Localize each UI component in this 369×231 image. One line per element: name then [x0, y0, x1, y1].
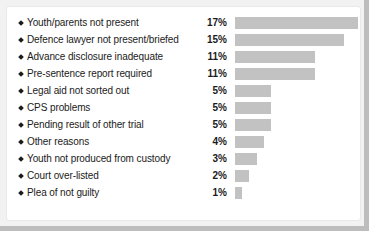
chart-row: CPS problems5% [7, 99, 360, 116]
value-label: 11% [189, 68, 227, 79]
category-label: Advance disclosure inadequate [27, 51, 163, 62]
bar-track [235, 170, 356, 182]
diamond-bullet-icon [15, 72, 27, 76]
chart-row: Youth/parents not present17% [7, 14, 360, 31]
bar-track [235, 51, 356, 63]
category-label: Pre-sentence report required [27, 68, 152, 79]
value-label: 3% [189, 153, 227, 164]
chart-row: Advance disclosure inadequate11% [7, 48, 360, 65]
category-label: Defence lawyer not present/briefed [27, 34, 179, 45]
value-label: 5% [189, 102, 227, 113]
category-label: Youth/parents not present [27, 17, 139, 28]
value-label: 5% [189, 85, 227, 96]
diamond-glyph [18, 139, 24, 145]
diamond-bullet-icon [15, 157, 27, 161]
bar-track [235, 85, 356, 97]
diamond-glyph [18, 105, 24, 111]
diamond-glyph [18, 88, 24, 94]
diamond-bullet-icon [15, 106, 27, 110]
value-label: 4% [189, 136, 227, 147]
diamond-glyph [18, 190, 24, 196]
category-label: Youth not produced from custody [27, 153, 170, 164]
bar [235, 136, 264, 148]
diamond-bullet-icon [15, 21, 27, 25]
category-label: Legal aid not sorted out [27, 85, 129, 96]
category-label: Other reasons [27, 136, 89, 147]
value-label: 15% [189, 34, 227, 45]
bar [235, 119, 271, 131]
diamond-bullet-icon [15, 38, 27, 42]
chart-row: Legal aid not sorted out5% [7, 82, 360, 99]
diamond-bullet-icon [15, 191, 27, 195]
bar [235, 187, 242, 199]
value-label: 2% [189, 170, 227, 181]
category-label: CPS problems [27, 102, 90, 113]
diamond-glyph [18, 122, 24, 128]
chart-row: Youth not produced from custody3% [7, 150, 360, 167]
bar [235, 102, 271, 114]
diamond-bullet-icon [15, 89, 27, 93]
bar-track [235, 187, 356, 199]
category-label: Plea of not guilty [27, 187, 99, 198]
value-label: 17% [189, 17, 227, 28]
value-label: 11% [189, 51, 227, 62]
chart-row-list: Youth/parents not present17%Defence lawy… [7, 14, 360, 220]
bar [235, 85, 271, 97]
bar-track [235, 153, 356, 165]
chart-frame: Youth/parents not present17%Defence lawy… [0, 0, 369, 231]
chart-row: Defence lawyer not present/briefed15% [7, 31, 360, 48]
diamond-glyph [18, 71, 24, 77]
diamond-bullet-icon [15, 55, 27, 59]
bar [235, 153, 257, 165]
bar-track [235, 68, 356, 80]
chart-row: Plea of not guilty1% [7, 184, 360, 201]
bar-track [235, 102, 356, 114]
diamond-glyph [18, 37, 24, 43]
bar-track [235, 17, 356, 29]
diamond-bullet-icon [15, 140, 27, 144]
diamond-bullet-icon [15, 123, 27, 127]
bar-track [235, 34, 356, 46]
bar [235, 170, 249, 182]
bar [235, 17, 358, 29]
diamond-glyph [18, 156, 24, 162]
chart-row: Court over-listed2% [7, 167, 360, 184]
diamond-glyph [18, 20, 24, 26]
value-label: 5% [189, 119, 227, 130]
chart-row: Other reasons4% [7, 133, 360, 150]
chart-panel: Youth/parents not present17%Defence lawy… [6, 6, 361, 221]
chart-row: Pre-sentence report required11% [7, 65, 360, 82]
chart-row: Pending result of other trial5% [7, 116, 360, 133]
bar-track [235, 119, 356, 131]
bar [235, 68, 315, 80]
value-label: 1% [189, 187, 227, 198]
bar [235, 34, 344, 46]
frame-bottom-edge [0, 226, 369, 231]
bar-track [235, 136, 356, 148]
frame-right-edge [364, 0, 369, 231]
category-label: Court over-listed [27, 170, 99, 181]
bar [235, 51, 315, 63]
diamond-glyph [18, 173, 24, 179]
diamond-bullet-icon [15, 174, 27, 178]
category-label: Pending result of other trial [27, 119, 144, 130]
diamond-glyph [18, 54, 24, 60]
